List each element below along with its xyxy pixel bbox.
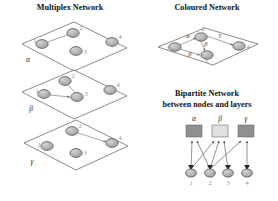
- bipartite-node-label-2: 2: [208, 179, 211, 186]
- layer-node-label-alpha-2: 2: [79, 24, 82, 31]
- coloured-edge-colour-label-alpha: α: [186, 32, 190, 39]
- bipartite-panel-title: Bipartite Network: [175, 89, 239, 98]
- layer-node-alpha-2: [67, 29, 79, 38]
- layer-node-alpha-3: [70, 47, 82, 56]
- bipartite-node-1: [186, 169, 197, 177]
- bipartite-layer-square-alpha: [186, 125, 202, 137]
- layer-node-alpha-1: [36, 40, 48, 49]
- layer-label-beta: β: [28, 104, 33, 113]
- bipartite-panel-subtitle: between nodes and layers: [163, 100, 252, 109]
- bipartite-node-label-3: 3: [226, 179, 229, 186]
- coloured-node-label-1: 1: [166, 45, 169, 52]
- layer-node-beta-3: [71, 93, 83, 102]
- layer-node-label-gamma-1: 1: [37, 141, 40, 148]
- figure-canvas: Multiplex Network α 1 2 3 4 β 1 2: [0, 0, 278, 201]
- layer-node-label-gamma-2: 2: [78, 122, 81, 129]
- bipartite-edge-1-beta: [191, 141, 214, 169]
- bipartite-layer-label-beta: β: [217, 114, 222, 123]
- multiplex-layer-gamma: γ 1 2 3 4: [24, 120, 128, 170]
- bipartite-node-4: [242, 169, 253, 177]
- layer-node-label-beta-4: 4: [116, 81, 120, 88]
- multiplex-layer-alpha: α 1 2 3 4: [22, 22, 127, 71]
- layer-node-beta-1: [38, 90, 50, 99]
- bipartite-edge-2-alpha: [197, 141, 210, 169]
- bipartite-graph: α β γ 1 2 3: [186, 114, 254, 186]
- layer-node-label-beta-3: 3: [84, 90, 87, 97]
- layer-node-gamma-3: [70, 149, 82, 158]
- bipartite-node-label-1: 1: [189, 179, 192, 186]
- coloured-edge-colour-label-beta-2: β: [187, 50, 192, 57]
- multiplex-layer-beta: β 1 2 3 4: [22, 70, 127, 119]
- coloured-node-label-3: 3: [204, 57, 207, 64]
- layer-node-gamma-4: [106, 139, 118, 148]
- layer-node-label-beta-1: 1: [35, 87, 38, 94]
- bipartite-layer-square-gamma: [238, 125, 254, 137]
- layer-node-label-alpha-1: 1: [33, 37, 36, 44]
- bipartite-layer-label-alpha: α: [192, 114, 197, 123]
- coloured-edge-colour-label-gamma: γ: [219, 31, 222, 38]
- coloured-panel-title: Coloured Network: [174, 3, 240, 12]
- bipartite-layer-square-beta: [212, 125, 228, 137]
- layer-node-label-beta-2: 2: [71, 72, 74, 79]
- coloured-node-1: [169, 43, 181, 51]
- layer-node-gamma-2: [66, 127, 78, 136]
- coloured-network-panel: 1 2 3 4 α β β γ: [158, 25, 258, 65]
- coloured-node-label-2: 2: [201, 25, 204, 32]
- bipartite-node-3: [223, 169, 234, 177]
- layer-node-label-alpha-3: 3: [83, 48, 86, 55]
- bipartite-node-label-4: 4: [245, 179, 249, 186]
- layer-node-beta-2: [59, 77, 71, 86]
- layer-node-label-gamma-3: 3: [83, 149, 86, 156]
- coloured-edge-colour-label-beta-1: β: [203, 40, 208, 47]
- layer-label-gamma: γ: [31, 157, 35, 166]
- layer-label-alpha: α: [26, 55, 31, 64]
- layer-node-gamma-1: [41, 142, 53, 151]
- multiplex-panel-title: Multiplex Network: [37, 3, 104, 12]
- layer-node-label-alpha-4: 4: [118, 33, 122, 40]
- layer-node-alpha-4: [106, 38, 118, 47]
- bipartite-edge-1-alpha: [191, 141, 192, 169]
- bipartite-layer-label-gamma: γ: [245, 114, 249, 123]
- bipartite-node-2: [205, 169, 216, 177]
- multilayer-network-figure: Multiplex Network α 1 2 3 4 β 1 2: [0, 0, 278, 201]
- layer-node-beta-4: [104, 86, 116, 95]
- coloured-node-4: [233, 42, 245, 50]
- layer-node-label-gamma-4: 4: [118, 134, 122, 141]
